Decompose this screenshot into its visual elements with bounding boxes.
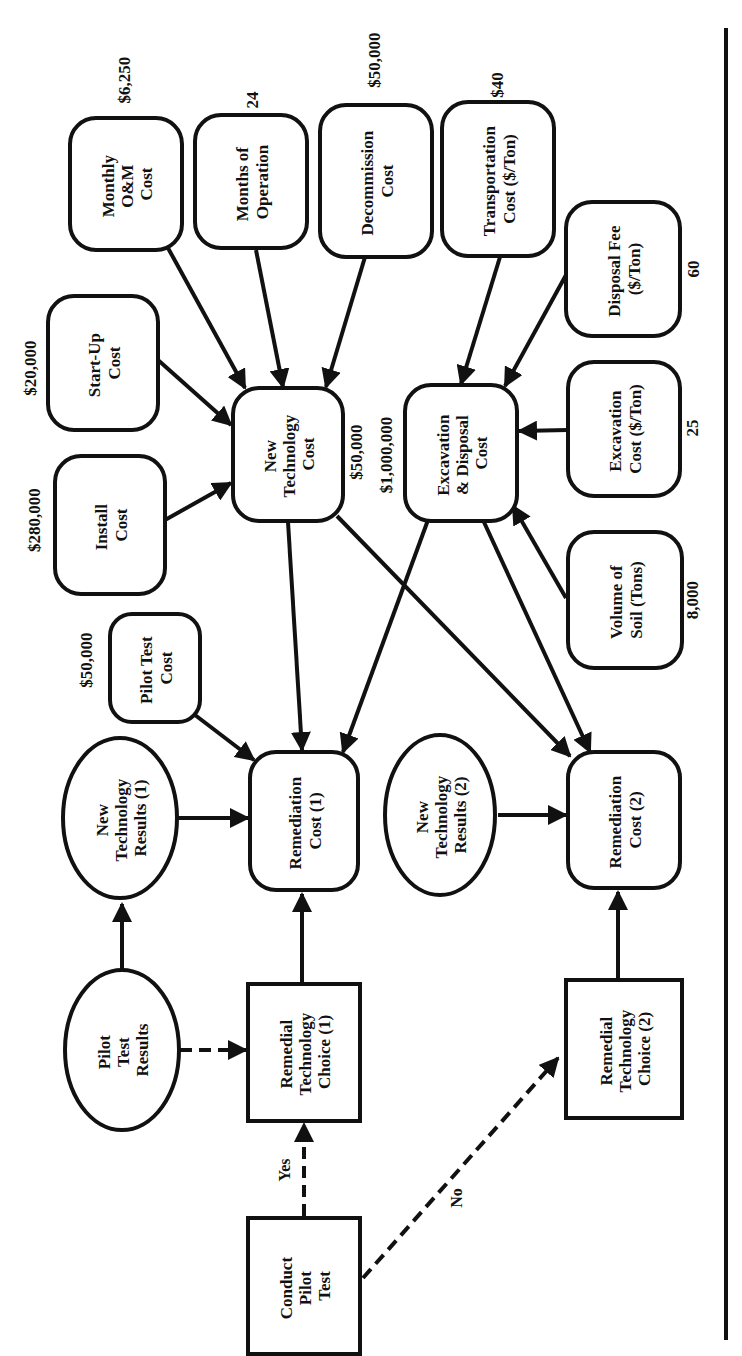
node-pilot-test-cost: Pilot Test Cost (110, 614, 200, 722)
node-monthly-om-cost: Monthly O&M Cost (70, 118, 182, 250)
value-monthly-om-cost: $6,250 (115, 57, 134, 104)
node-conduct-pilot-test: Conduct Pilot Test (248, 1218, 360, 1354)
svg-text:Months of Operation: Months of Operation (233, 143, 272, 221)
svg-text:Volume of Soil (Tons): Volume of Soil (Tons) (607, 561, 646, 639)
value-new-technology-cost: $50,000 (347, 424, 366, 479)
node-excavation-cost: Excavation Cost ($/Ton) (568, 362, 680, 496)
value-install-cost: $280,000 (25, 488, 44, 552)
node-pilot-test-results: Pilot Test Results (65, 970, 179, 1130)
value-decommission-cost: $50,000 (365, 32, 384, 87)
node-remediation-cost-1: Remediation Cost (1) (250, 752, 358, 890)
edge-decommission-to-new-tech (326, 257, 365, 387)
edge-excavation-disposal-to-remediation-1 (343, 520, 428, 752)
node-volume-of-soil: Volume of Soil (Tons) (568, 532, 682, 668)
edge-install-to-new-tech (165, 483, 231, 520)
value-excavation-cost: 25 (683, 420, 702, 437)
svg-text:Excavation Cost ($/Ton): Excavation Cost ($/Ton) (606, 384, 645, 474)
value-start-up-cost: $20,000 (21, 340, 40, 395)
value-transportation-cost: $40 (488, 72, 507, 98)
node-transportation-cost: Transportation Cost ($/Ton) (442, 102, 554, 256)
value-pilot-test-cost: $50,000 (77, 632, 96, 687)
node-decommission-cost: Decommission Cost (320, 105, 432, 257)
node-months-of-operation: Months of Operation (195, 115, 307, 248)
edge-soil-volume-to-excavation-disposal (513, 506, 566, 598)
edge-conduct-to-choice-2-no (363, 1058, 558, 1278)
value-excavation-disposal-cost: $1,000,000 (377, 417, 396, 494)
edge-startup-to-new-tech (158, 360, 231, 425)
edges (122, 248, 618, 1278)
node-new-technology-results-1: New Technology Results (1) (63, 738, 177, 898)
influence-diagram: Yes No Monthly O&M Cost $6,250 Months of… (0, 0, 742, 1356)
node-disposal-fee: Disposal Fee ($/Ton) (566, 202, 680, 336)
edge-label-yes: Yes (276, 1158, 293, 1181)
node-new-technology-results-2: New Technology Results (2) (385, 735, 495, 895)
svg-text:Remedial Technology: Remedial Technology Choice (1) (277, 1009, 334, 1096)
node-remedial-technology-choice-1: Remedial Technology Choice (1) (248, 984, 360, 1121)
node-install-cost: Install Cost (55, 456, 165, 594)
edge-pilot-test-cost-to-remediation-1 (195, 715, 254, 760)
svg-text:Transportation Cost ($/T: Transportation Cost ($/Ton) (480, 122, 519, 236)
edge-transport-to-excavation-disposal (461, 257, 500, 384)
edge-label-no: No (448, 1188, 465, 1208)
node-new-technology-cost: New Technology Cost (233, 388, 343, 521)
node-remedial-technology-choice-2: Remedial Technology Choice (2) (566, 980, 682, 1118)
edge-months-to-new-tech (256, 250, 283, 387)
svg-text:Remedial Technology: Remedial Technology Choice (2) (597, 1006, 654, 1093)
edge-disposal-fee-to-excavation-disposal (505, 275, 566, 386)
edge-new-tech-to-remediation-1 (288, 522, 302, 750)
node-start-up-cost: Start-Up Cost (48, 296, 158, 430)
value-disposal-fee: 60 (684, 261, 703, 278)
value-months-of-operation: 24 (243, 91, 262, 109)
value-volume-of-soil: 8,000 (683, 581, 702, 619)
node-excavation-disposal-cost: Excavation & Disposal Cost (405, 385, 517, 521)
edge-excavation-cost-to-excavation-disposal (519, 430, 568, 431)
edge-monthly-om-to-new-tech (168, 248, 245, 388)
node-remediation-cost-2: Remediation Cost (2) (568, 752, 680, 888)
